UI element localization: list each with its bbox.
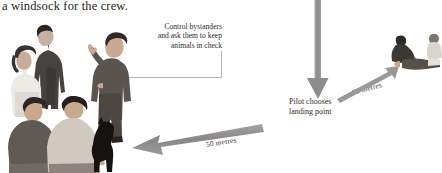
casualty-and-first-aider xyxy=(388,34,442,74)
bystanders-kneeling-with-dog xyxy=(6,96,114,173)
pilot-landing-point-label: Pilot chooses landing point xyxy=(289,97,331,117)
distance-label-left: 50 metres xyxy=(205,135,237,149)
callout-leader-line-horizontal xyxy=(128,77,222,78)
left-arrow-icon xyxy=(132,124,264,155)
distance-label-right: 50 metres xyxy=(351,80,383,97)
page-caption: a windsock for the crew. xyxy=(2,0,128,14)
diagram-canvas: a windsock for the crew. Control bystand… xyxy=(0,0,442,173)
pilot-label-line-1: Pilot chooses xyxy=(289,97,331,107)
callout-leader-line-vertical xyxy=(221,51,222,78)
helper-figure xyxy=(427,34,442,59)
down-arrow-icon xyxy=(307,0,329,99)
pilot-label-line-2: landing point xyxy=(289,107,331,117)
